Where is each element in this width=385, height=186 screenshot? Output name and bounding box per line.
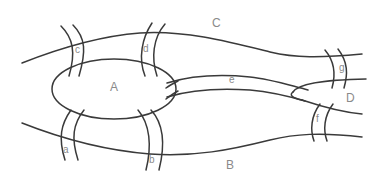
bridge-label-e: e bbox=[229, 75, 235, 85]
region-label-d: D bbox=[346, 92, 355, 104]
diagram-drawing bbox=[0, 0, 385, 186]
river-bank-b bbox=[22, 123, 362, 155]
bridge-label-c: c bbox=[75, 45, 80, 55]
island-d-tip bbox=[291, 92, 302, 100]
river-channel-lower-edge bbox=[167, 89, 305, 101]
konigsberg-diagram: A B C D a b c d e f g bbox=[0, 0, 385, 186]
region-label-a: A bbox=[110, 81, 118, 93]
bridge-label-b: b bbox=[149, 155, 155, 165]
river-channel-upper-edge bbox=[167, 76, 308, 90]
bridge-c-left bbox=[61, 26, 73, 76]
bridge-label-a: a bbox=[63, 145, 69, 155]
bridge-label-g: g bbox=[339, 63, 345, 73]
bridge-f-right bbox=[325, 104, 333, 141]
bridge-label-f: f bbox=[316, 114, 319, 124]
bridge-label-d: d bbox=[143, 44, 149, 54]
bridge-b-left bbox=[138, 110, 149, 170]
bridge-a-right bbox=[74, 110, 84, 160]
island-d-upper-edge bbox=[293, 79, 366, 92]
region-label-b: B bbox=[226, 159, 234, 171]
region-label-c: C bbox=[212, 17, 221, 29]
